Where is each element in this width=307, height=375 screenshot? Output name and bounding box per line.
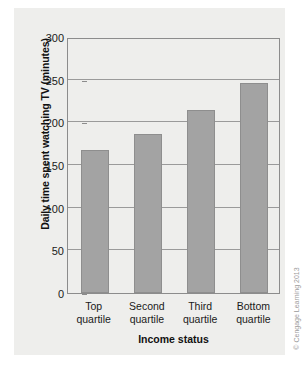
- x-axis-tick-label-line: quartile: [170, 313, 230, 326]
- x-axis-tick-label: Secondquartile: [117, 300, 177, 326]
- x-axis-tick-label-line: Bottom: [223, 300, 283, 313]
- x-axis-tick-label-line: quartile: [64, 313, 124, 326]
- copyright-credit: © Cengage Learning 2013: [293, 244, 300, 374]
- bar: [81, 150, 109, 293]
- x-axis-title: Income status: [67, 333, 280, 345]
- plot-area: [67, 38, 280, 294]
- figure: 050100150200250300 Daily time spent watc…: [0, 0, 307, 375]
- x-axis-tick-labels: TopquartileSecondquartileThirdquartileBo…: [67, 300, 280, 334]
- x-axis-tick-label-line: quartile: [223, 313, 283, 326]
- y-axis-title: Daily time spent watching TV (minutes): [39, 9, 51, 259]
- x-axis-tick-label: Topquartile: [64, 300, 124, 326]
- x-axis-tick-label-line: Third: [170, 300, 230, 313]
- y-axis-tick-label: 0: [24, 289, 64, 300]
- bar: [187, 110, 215, 293]
- y-axis-tick-mark: [82, 294, 87, 295]
- x-axis-tick-label-line: Second: [117, 300, 177, 313]
- x-axis-tick-label: Thirdquartile: [170, 300, 230, 326]
- x-axis-tick-label: Bottomquartile: [223, 300, 283, 326]
- x-axis-tick-label-line: quartile: [117, 313, 177, 326]
- gridline: [68, 79, 279, 80]
- x-axis-tick-label-line: Top: [64, 300, 124, 313]
- bar: [134, 134, 162, 293]
- bar: [240, 83, 268, 293]
